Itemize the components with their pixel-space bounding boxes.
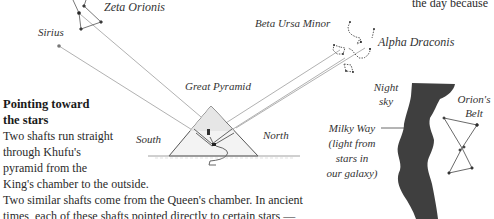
body-line: times, each of these shafts pointed dire… [3, 208, 303, 219]
milky-way-band [398, 83, 455, 219]
body-line: Two shafts run straight [3, 128, 303, 144]
night-sky-line-1: Night [366, 80, 406, 94]
label-milky-way: Milky Way (light from stars in our galax… [322, 121, 382, 181]
orions-belt-constellation [443, 117, 479, 174]
label-zeta-orionis: Zeta Orionis [104, 0, 165, 15]
section-pointing-toward-stars: Pointing toward the stars Two shafts run… [3, 96, 303, 219]
orions-belt-line-1: Orion's [452, 92, 494, 106]
milky-way-line-1: Milky Way [322, 121, 382, 136]
sirius-star [57, 44, 61, 48]
label-sirius: Sirius [38, 26, 64, 38]
section-heading: Pointing toward the stars [3, 96, 303, 128]
milky-way-line-2: (light from [322, 136, 382, 151]
label-orions-belt: Orion's Belt [452, 92, 494, 120]
section-body: Two shafts run straight through Khufu's … [3, 128, 303, 219]
milky-way-line-3: stars in [322, 151, 382, 166]
label-beta-ursa-minor: Beta Ursa Minor [255, 17, 330, 29]
heading-line-2: the stars [3, 112, 303, 128]
orions-belt-line-2: Belt [452, 106, 494, 120]
body-line: pyramid from the [3, 160, 303, 176]
heading-line-1: Pointing toward [3, 96, 303, 112]
body-line: King's chamber to the outside. [3, 176, 303, 192]
milky-way-line-4: our galaxy) [322, 166, 382, 181]
label-great-pyramid: Great Pyramid [185, 80, 251, 92]
zeta-orionis-constellation [73, 0, 102, 30]
night-sky-line-2: sky [366, 94, 406, 108]
label-alpha-draconis: Alpha Draconis [378, 35, 454, 50]
continued-text-fragment: the day because [412, 0, 488, 11]
body-line: through Khufu's [3, 144, 303, 160]
body-line: Two similar shafts come from the Queen's… [3, 192, 303, 208]
label-night-sky: Night sky [366, 80, 406, 108]
